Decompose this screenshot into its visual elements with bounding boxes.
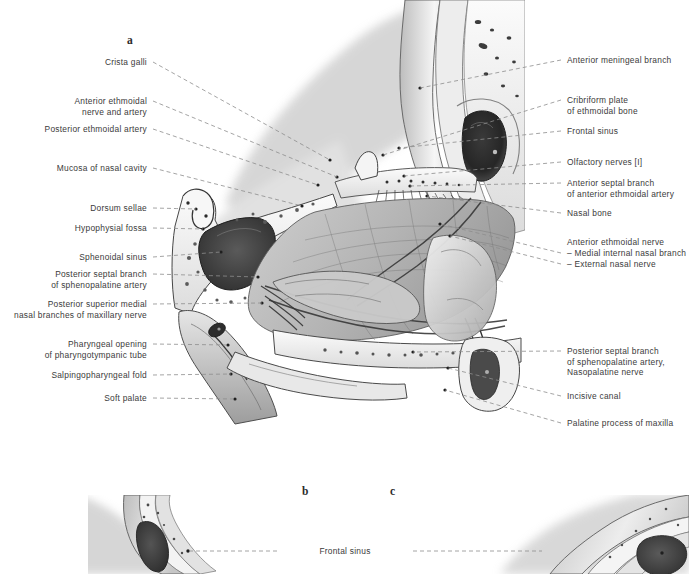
label-line: Hypophysial fossa	[75, 223, 147, 234]
label-line: of sphenopalatine artery,	[567, 357, 665, 368]
label-palatine-process-of-maxilla: Palatine process of maxilla	[567, 418, 673, 429]
figure-letter-b: b	[302, 485, 308, 497]
label-posterior-septal-branch-nas: Posterior septal branchof sphenopalatine…	[567, 346, 665, 378]
label-dorsum-sellae: Dorsum sellae	[90, 203, 147, 214]
nasal-tip-columella	[424, 235, 497, 341]
label-line: Palatine process of maxilla	[567, 418, 673, 429]
label-mucosa-of-nasal-cavity: Mucosa of nasal cavity	[57, 163, 147, 174]
label-line: Mucosa of nasal cavity	[57, 163, 147, 174]
label-line: Cribriform plate	[567, 95, 638, 106]
label-external-nasal-nerve: – External nasal nerve	[567, 259, 656, 270]
label-line: Posterior ethmoidal artery	[45, 124, 147, 135]
label-line: Sphenoidal sinus	[79, 252, 147, 263]
label-line: – Medial internal nasal branch	[567, 248, 686, 259]
label-line: Olfactory nerves [I]	[567, 157, 642, 168]
label-line: Anterior septal branch	[567, 178, 674, 189]
label-line: Frontal sinus	[285, 546, 405, 557]
label-line: nerve and artery	[75, 107, 147, 118]
label-line: Nasal bone	[567, 208, 612, 219]
figure-c-illustration	[460, 495, 689, 574]
label-posterior-septal-branch-sp: Posterior septal branchof sphenopalatine…	[51, 269, 147, 290]
label-line: Soft palate	[104, 393, 147, 404]
label-line: of pharyngotympanic tube	[45, 350, 147, 361]
label-line: Posterior septal branch	[51, 269, 147, 280]
label-line: Incisive canal	[567, 391, 621, 402]
figure-b-illustration	[88, 495, 263, 574]
label-cribriform-plate: Cribriform plateof ethmoidal bone	[567, 95, 638, 116]
label-salpingopharyngeal-fold: Salpingopharyngeal fold	[51, 370, 147, 381]
label-medial-internal-nasal-branch: – Medial internal nasal branch	[567, 248, 686, 259]
label-anterior-ethmoidal-nerve-r: Anterior ethmoidal nerve	[567, 237, 664, 248]
label-anterior-septal-branch: Anterior septal branchof anterior ethmoi…	[567, 178, 674, 199]
label-line: Posterior superior medial	[14, 299, 147, 310]
label-nasal-bone: Nasal bone	[567, 208, 612, 219]
label-line: Posterior septal branch	[567, 346, 665, 357]
label-sphenoidal-sinus: Sphenoidal sinus	[79, 252, 147, 263]
label-anterior-meningeal-branch: Anterior meningeal branch	[567, 55, 671, 66]
label-posterior-ethmoidal-artery: Posterior ethmoidal artery	[45, 124, 147, 135]
figure-letter-c: c	[390, 485, 395, 497]
label-line: Pharyngeal opening	[45, 339, 147, 350]
label-line: of ethmoidal bone	[567, 106, 638, 117]
figure-a-illustration	[165, 0, 525, 432]
label-olfactory-nerves: Olfactory nerves [I]	[567, 157, 642, 168]
label-line: of sphenopalatine artery	[51, 280, 147, 291]
label-line: nasal branches of maxillary nerve	[14, 310, 147, 321]
label-anterior-ethmoidal-nerve: Anterior ethmoidalnerve and artery	[75, 96, 147, 117]
figure-letter-a: a	[127, 34, 133, 46]
incisive-canal-region	[459, 337, 520, 411]
label-frontal-sinus-bc: Frontal sinus	[285, 546, 405, 557]
label-line: Salpingopharyngeal fold	[51, 370, 147, 381]
label-line: of anterior ethmoidal artery	[567, 189, 674, 200]
label-line: Crista galli	[105, 57, 147, 68]
label-frontal-sinus: Frontal sinus	[567, 126, 618, 137]
label-hypophysial-fossa: Hypophysial fossa	[75, 223, 147, 234]
label-incisive-canal: Incisive canal	[567, 391, 621, 402]
label-line: Anterior ethmoidal nerve	[567, 237, 664, 248]
label-line: Dorsum sellae	[90, 203, 147, 214]
label-anchor-dot-c	[660, 551, 663, 554]
label-soft-palate: Soft palate	[104, 393, 147, 404]
label-line: – External nasal nerve	[567, 259, 656, 270]
label-post-sup-medial-nasal: Posterior superior medialnasal branches …	[14, 299, 147, 320]
label-line: Anterior ethmoidal	[75, 96, 147, 107]
anatomical-plate-page: abc Crista galliAnterior ethmoidalnerve …	[0, 0, 689, 574]
label-line: Frontal sinus	[567, 126, 618, 137]
label-line: Anterior meningeal branch	[567, 55, 671, 66]
label-line: Nasopalatine nerve	[567, 367, 665, 378]
label-crista-galli: Crista galli	[105, 57, 147, 68]
label-pharyngeal-opening: Pharyngeal openingof pharyngotympanic tu…	[45, 339, 147, 360]
label-anchor-dot-b	[186, 549, 189, 552]
